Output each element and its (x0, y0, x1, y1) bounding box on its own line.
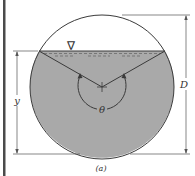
depth-arrow-bottom-icon (15, 149, 18, 154)
theta-label: θ (99, 104, 105, 115)
diameter-arrow-top-icon (184, 15, 187, 20)
depth-label: y (13, 95, 20, 106)
partially-full-pipe-diagram: θ ∇ y D (a) (0, 0, 195, 176)
depth-arrow-top-icon (15, 51, 18, 56)
diagram-canvas: θ ∇ y D (a) (0, 0, 195, 176)
diameter-arrow-bottom-icon (184, 149, 187, 154)
diameter-label: D (179, 79, 188, 90)
water-surface-symbol-icon: ∇ (66, 39, 76, 53)
left-border-bar (3, 0, 6, 176)
figure-caption: (a) (95, 164, 106, 173)
